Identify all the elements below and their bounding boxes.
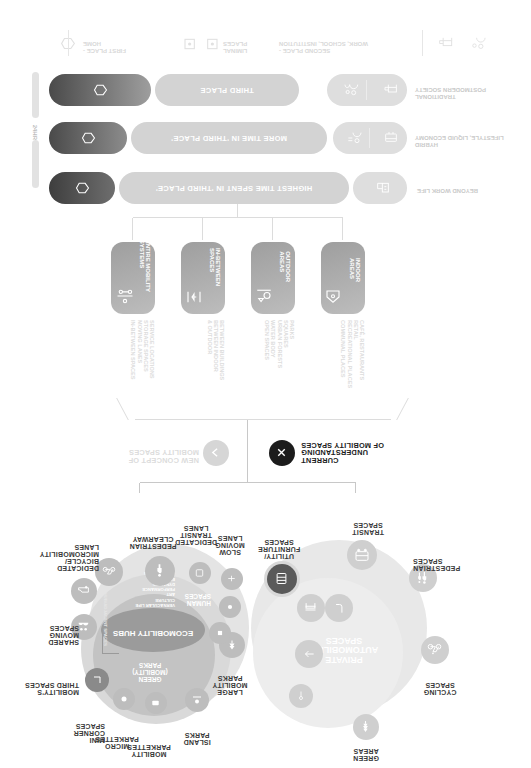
bus-icon xyxy=(354,547,370,563)
node-dedicated-bicycle-lanes[interactable] xyxy=(95,558,123,586)
parkette-icon xyxy=(151,698,162,709)
timeline-bar-label-row-1: HIGHEST TIME SPENT IN 'THIRD PLACE' xyxy=(119,184,349,193)
card-connector-2 xyxy=(272,218,273,240)
work-life-icon xyxy=(375,176,391,196)
node-green-areas[interactable] xyxy=(353,714,379,740)
legend-label-first-place: FIRST PLACE - HOME xyxy=(83,41,153,54)
office-icon xyxy=(343,78,359,98)
corner-icon xyxy=(91,674,103,686)
indoor-icon xyxy=(324,284,342,306)
scale-segment-top xyxy=(32,140,39,188)
shared-moving-icon xyxy=(78,585,91,598)
legend-school-icon xyxy=(469,31,487,52)
bracket-right xyxy=(139,483,140,493)
green-mobility-parks-label: GREEN (MOBILITY) PARKS xyxy=(127,662,173,682)
label-mobilitys-third-spaces: MOBILITY'S THIRD SPACES xyxy=(23,682,79,696)
category-items-entire-mobility-systems: SERVICE LOCATIONS STORAGE SPACES MOVING … xyxy=(130,320,155,400)
label-cycling-spaces: CYCLING SPACES xyxy=(411,682,469,696)
node-bench[interactable] xyxy=(297,594,325,622)
legend-divider-2 xyxy=(68,30,69,56)
bicycle-icon xyxy=(428,643,443,658)
bracket-top xyxy=(140,482,356,483)
node-cycling-spaces[interactable] xyxy=(421,636,449,664)
node-misc-a[interactable] xyxy=(289,684,313,708)
category-label-in-between-spaces: IN-BETWEEN SPACES xyxy=(208,248,221,286)
timeline-home-pill-row-1[interactable] xyxy=(49,172,115,204)
home-pentagon-icon xyxy=(74,180,91,196)
dot-icon xyxy=(225,602,235,612)
node-shared-moving-spaces[interactable] xyxy=(71,578,97,604)
timeline-home-pill-row-2[interactable] xyxy=(49,122,127,154)
legend-liminal-icon-2 xyxy=(205,32,221,52)
human-spaces-label: HUMAN SPACES xyxy=(175,592,211,606)
fan-bracket-right xyxy=(116,398,145,420)
hub-connector-horizontal xyxy=(102,653,119,654)
pedestrian-icon xyxy=(153,564,168,579)
legend-label-liminal-places: LIMINAL PLACES xyxy=(223,41,267,54)
micro-parkette-icon xyxy=(119,694,129,704)
hybrid-home-icon xyxy=(383,126,399,146)
transit-icon xyxy=(195,568,206,579)
hybrid-work-icon xyxy=(347,126,363,146)
slow-lane-icon xyxy=(227,574,238,585)
node-utility-furniture[interactable] xyxy=(267,564,297,594)
bracket-center xyxy=(247,419,248,483)
infographic-canvas: PRIVATE AUTOMOBILITY SPACES GREEN AREAS … xyxy=(0,0,531,768)
outdoor-icon xyxy=(255,284,273,306)
node-extra-b[interactable] xyxy=(209,622,231,644)
label-island-parks: ISLAND PARKS xyxy=(175,732,219,746)
legend-work-icon xyxy=(437,31,455,52)
timeline-home-pill-row-3[interactable] xyxy=(49,74,151,106)
curve-icon xyxy=(332,601,346,615)
fan-bracket-top xyxy=(135,419,391,420)
node-pedestrian-clearway[interactable] xyxy=(145,556,175,586)
label-shared-moving-spaces: SHARED MOVING SPACES xyxy=(27,625,79,646)
label-transit-spaces: TRANSIT SPACES xyxy=(341,522,395,536)
timeline-era-label-row-3: TRADITIONAL POSTMODERN SOCIETY xyxy=(415,87,523,100)
pedestrian-icon xyxy=(416,571,431,586)
category-label-outdoor-areas: OUTDOOR AREAS xyxy=(278,251,291,282)
scale-segment-bottom xyxy=(32,72,39,118)
card-connector-4 xyxy=(132,218,133,240)
legend-label-second-place: SECOND PLACE - WORK, SCHOOL, INSTITUTION xyxy=(279,41,411,54)
new-concept-icon-badge[interactable] xyxy=(203,440,229,466)
x-circle-icon xyxy=(276,447,289,460)
node-mobility-parkettes[interactable] xyxy=(145,692,167,714)
label-utility-furniture-spaces: UTILITY/ FURNITURE SPACES xyxy=(249,539,309,560)
bench-icon xyxy=(304,601,319,616)
timeline-icon-divider-row-2 xyxy=(369,128,370,148)
tree-icon xyxy=(360,721,373,734)
node-misc-c[interactable] xyxy=(325,594,353,622)
square-icon xyxy=(215,628,225,638)
category-label-entire-mobility-systems: ENTIRE MOBILITY SYSTEMS xyxy=(138,240,151,292)
timeline-bar-label-row-2: MORE TIME IN 'THIRD PLACE' xyxy=(131,134,327,143)
node-transit-spaces[interactable] xyxy=(347,540,377,570)
home-pentagon-icon xyxy=(92,82,109,98)
node-dedicated-transit-lanes[interactable] xyxy=(189,562,211,584)
bracket-left xyxy=(355,483,356,493)
node-misc-b[interactable] xyxy=(295,640,323,668)
timeline-icon-divider-row-3 xyxy=(366,80,367,100)
node-micro-parkettes[interactable] xyxy=(113,688,135,710)
label-mini-corner-spaces: MINI CORNER SPACES xyxy=(55,723,105,744)
label-green-areas: GREEN AREAS xyxy=(341,748,391,762)
bar-bracket-stem xyxy=(237,204,238,218)
hub-adjacent-spaces-label: HUB/ADJACENT SPACES xyxy=(102,592,107,646)
home-pentagon-icon xyxy=(80,130,97,146)
legend-liminal-icon xyxy=(181,32,197,52)
node-extra-a[interactable] xyxy=(219,596,241,618)
node-mini-corner-spaces[interactable] xyxy=(85,668,109,692)
current-understanding-icon-badge[interactable] xyxy=(269,440,295,466)
fan-bracket-left xyxy=(380,398,409,420)
category-items-in-between-spaces: BETWEEN BUILDINGS BETWEEN INDOOR & OUTDO… xyxy=(206,320,225,392)
label-slow-moving-lanes: SLOW MOVING LANES xyxy=(207,535,253,556)
timeline-bar-label-row-3: THIRD PLACE xyxy=(155,86,299,95)
node-island-parks[interactable] xyxy=(185,688,209,712)
node-slow-moving-lanes[interactable] xyxy=(221,568,243,590)
label-dedicated-bicycle-lanes: DEDICATED BICYCLE/ MICROMOBILITY LANES xyxy=(41,544,99,573)
chevron-right-circle-icon xyxy=(210,447,223,460)
mobility-system-icon xyxy=(115,282,135,306)
ecomobility-hubs-label: ECOMOBILITY HUBS xyxy=(105,629,201,638)
card-connector-1 xyxy=(342,218,343,240)
island-icon xyxy=(191,694,203,706)
